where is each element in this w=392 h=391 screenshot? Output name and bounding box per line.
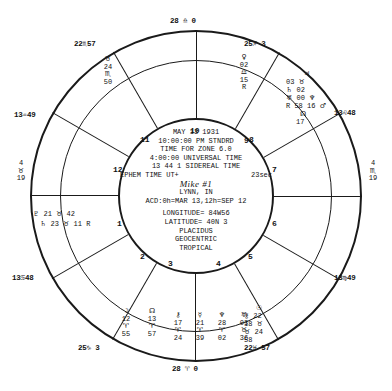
planet-minute: 19 [14,175,28,183]
planet-minute: 57 [144,331,160,339]
sidereal-time: 13 44 1 SIDEREAL TIME [118,162,274,171]
frame-of-reference: GEOCENTRIC [118,235,274,244]
cusp-label-8: 13♋48 [12,273,34,282]
inner-cusp-line-1 [274,196,332,197]
acd-line: ACD:0h=MAR 13,12h=SEP 12 [118,197,274,206]
planet-row-pluto: ♇ 21 ♉ 42 [33,210,75,219]
latitude: LATITUDE= 40N 3 [118,218,274,227]
planet-sign: ♉ [56,210,62,218]
planet-cluster-right: ♃ 03 ♉ ♄ 02 ♅ 00 ♆ R 58 16 ♂ ☊ 17 [286,70,328,126]
inner-cusp-line-10 [196,60,197,118]
planet-row-saturn: ♄ 23 ♉ 11 R [40,220,90,229]
planet-minute: 24 [170,335,186,343]
planet-cluster-bottom-right: ☉ ⚷ 22 18 ♉ ♉ 24 58 [244,304,263,344]
planet-sign: ♉ [63,220,69,228]
cusp-label-asc: 13♌48 [334,108,356,117]
planet-group-jupiter-upper-left: ♉ 24 ♏ 50 [100,56,116,86]
planet-extra-value: 16 [307,102,315,110]
planet-minute: 02 [214,335,230,343]
house-number-2: 2 [140,252,145,261]
planet-group-mercury: ☿ 21 ♈ 39 [192,312,208,342]
last-sign: ♉ [244,328,250,336]
planet-degree-neptune: 00 [296,94,304,102]
last-degree: 24 [254,328,262,336]
planet-group-left-side: 4 ♉ 19 [14,160,28,183]
planet-retrograde: R [86,220,90,228]
zodiac-type: TROPICAL [118,244,274,253]
chart-center-data-block: MAY 13 1931 10:00:00 PM STNDRD TIME FOR … [118,128,274,252]
planet-group-chiron: ⚷ 17 ♈ 24 [170,312,186,342]
planet-glyph-pluto: ♆ [309,94,315,102]
cusp-label-12: 25♐ 3 [244,39,266,48]
house-system: PLACIDUS [118,227,274,236]
universal-time: 4:00:00 UNIVERSAL TIME [118,154,274,163]
planet-sign-saturn: ♉ [299,78,305,86]
planet-minute-pluto: 58 [294,102,302,110]
planet-glyph-uranus: ♄ [286,86,292,94]
astrology-chart-wheel: 28 ♎ 0 22♏57 25♐ 3 13♌48 13♒49 13♍49 13♋… [0,0,392,391]
sun-glyph: ☉ [256,304,262,312]
planet-minute: 50 [100,79,116,87]
planet-group-pluto-bottom: ♆ 28 ♈ 02 [214,312,230,342]
house-number-5: 5 [248,252,253,261]
cusp-label-mc: 28 ♎ 0 [170,16,196,25]
house-number-3: 3 [168,259,173,268]
planet-degree: 21 [43,210,51,218]
planet-minute: 42 [67,210,75,218]
planet-minute: 11 [74,220,82,228]
cusp-label-ic: 28 ♈ 0 [172,364,198,373]
planet-glyph-neptune: ♅ [286,94,292,102]
time-zone: TIME FOR ZONE 6.0 [118,145,274,154]
planet-glyph: ♇ [33,210,39,218]
planet-minute: 19 [366,175,380,183]
node-glyph: ☊ [300,110,306,118]
birth-time-local: 10:00:00 PM STNDRD [118,137,274,146]
chiron-sign: ♉ [257,320,263,328]
cusp-label-2: 13♍49 [334,273,356,282]
sun-degree: 22 [253,312,261,320]
planet-minute: 39 [192,335,208,343]
birth-date: MAY 13 1931 [118,128,274,137]
house-spoke-10 [196,30,197,60]
planet-group-moon: ☽ 12 ♈ 55 [118,308,134,338]
cusp-label-5: 22♓ 57 [244,343,270,352]
planet-degree-saturn: 03 [286,78,294,86]
house-number-4: 4 [216,259,221,268]
last-minute: 58 [244,336,252,344]
ephemeris-seconds: 23sec [251,171,272,180]
planet-group-venus-upper-right: ♀ 02 ♎ 15 R [236,54,252,92]
planet-degree-uranus: 02 [296,86,304,94]
planet-minute: 55 [118,331,134,339]
planet-group-node: ☊ 13 ♈ 57 [144,308,160,338]
birth-place: LYNN, IN [118,188,274,197]
cusp-label-9: 13♒49 [14,110,36,119]
planet-glyph-mars: ♂ [320,102,326,110]
planet-retrograde: R [236,84,252,92]
node-degree: 17 [296,118,304,126]
planet-retrograde-neptune: R [286,102,290,110]
chiron-degree: 18 [244,320,252,328]
chiron-glyph: ⚷ [244,312,249,320]
longitude: LONGITUDE= 84W56 [118,209,274,218]
planet-glyph: ♄ [40,220,46,228]
planet-degree: 23 [50,220,58,228]
house-spoke-7 [30,195,60,196]
house-spoke-1 [332,196,362,197]
cusp-label-6: 25♑ 3 [78,343,100,352]
cusp-label-11: 22♏57 [74,39,96,48]
planet-group-right-side: 4 ♏ 19 [366,160,380,183]
inner-cusp-line-7 [60,195,118,196]
ephemeris-time-label: EPHEM TIME UT+ [120,171,179,180]
planet-glyph-saturn: ♃ [304,70,310,78]
handwritten-annotation: Mike #1 [118,180,274,189]
